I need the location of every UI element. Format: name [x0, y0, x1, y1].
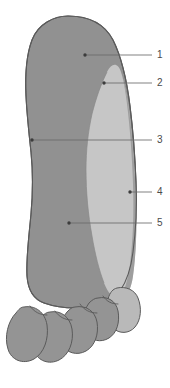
callout-dot-4 — [128, 190, 131, 193]
callout-label-4: 4 — [157, 187, 163, 197]
foot-diagram-svg — [0, 0, 170, 388]
callout-dot-3 — [30, 138, 33, 141]
callout-dot-2 — [102, 81, 105, 84]
callout-label-5: 5 — [157, 218, 163, 228]
callout-dot-5 — [67, 221, 70, 224]
foot-body-group — [26, 16, 137, 308]
callout-label-3: 3 — [157, 135, 163, 145]
callout-label-1: 1 — [157, 50, 163, 60]
callout-dot-1 — [83, 53, 86, 56]
callout-label-2: 2 — [157, 78, 163, 88]
foot-anatomy-figure: 1 2 3 4 5 — [0, 0, 170, 388]
